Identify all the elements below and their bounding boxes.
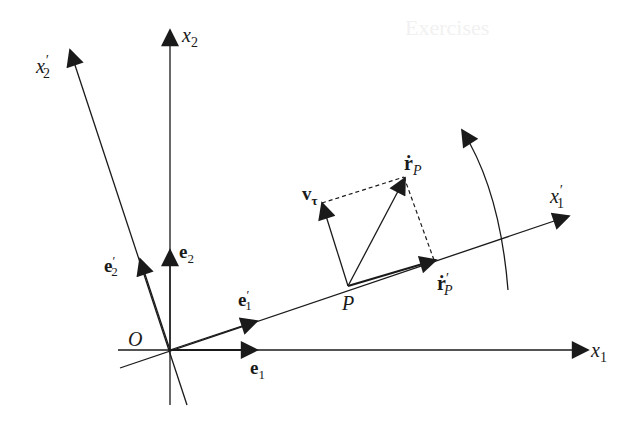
label-e2: e2 (179, 241, 194, 266)
v-tau-vector (322, 203, 348, 286)
label-x2: x2 (181, 24, 198, 50)
rdot-p-vector (348, 178, 405, 286)
label-v-tau: vτ (302, 183, 318, 208)
label-e1: e1 (250, 357, 265, 382)
label-e1-prime: e′1 (238, 287, 252, 313)
e1-prime-vector (170, 321, 257, 350)
e2-prime-vector (140, 259, 170, 350)
label-e2-prime: e′2 (104, 253, 118, 279)
label-x1: x1 (590, 339, 607, 365)
label-x2-prime: x′2 (35, 53, 50, 81)
rotation-arc-arrow (462, 130, 508, 290)
dashed-rdot-to-rdotprime (404, 177, 434, 260)
label-origin: O (128, 328, 142, 350)
diagram-canvas: Exercises x1 x2 (0, 0, 643, 426)
label-rdot-p-prime: ṙ′P (437, 271, 453, 298)
label-x1-prime: x′1 (549, 183, 564, 211)
rdot-p-prime-vector (348, 260, 436, 286)
dashed-vtau-to-rdot (322, 177, 404, 203)
label-point-p: P (341, 292, 354, 314)
rotating-frame-diagram: x1 x2 x′1 x′2 O e1 e2 e′1 e′2 P ṙP ṙ′P… (0, 0, 643, 426)
label-rdot-p: ṙP (404, 152, 422, 178)
